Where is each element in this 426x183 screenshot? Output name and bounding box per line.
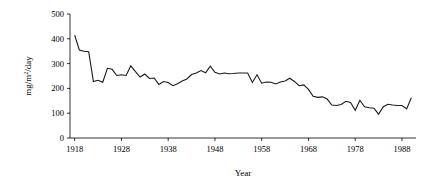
x-tick-label: 1968 [300,144,317,154]
chart-figure: 0100200300400500 19181928193819481958196… [0,0,426,183]
x-tick-label: 1958 [253,144,270,154]
x-tick-label: 1988 [393,144,410,154]
x-tick-label: 1928 [113,144,130,154]
y-tick-group: 0100200300400500 [51,9,70,143]
data-series-line [75,35,412,114]
y-tick-label: 500 [51,9,64,19]
x-tick-group: 19181928193819481958196819781988 [66,138,410,154]
x-tick-label: 1978 [347,144,364,154]
x-tick-label: 1938 [160,144,177,154]
y-tick-label: 300 [51,59,64,69]
y-axis-title: mg/m2/day [23,56,33,96]
line-chart-plot: 0100200300400500 19181928193819481958196… [0,0,426,183]
x-tick-label: 1948 [206,144,223,154]
y-tick-label: 200 [51,83,64,93]
y-tick-label: 400 [51,34,64,44]
x-tick-label: 1918 [66,144,83,154]
x-axis-title: Year [235,168,252,178]
y-tick-label: 100 [51,108,64,118]
y-tick-label: 0 [60,133,64,143]
